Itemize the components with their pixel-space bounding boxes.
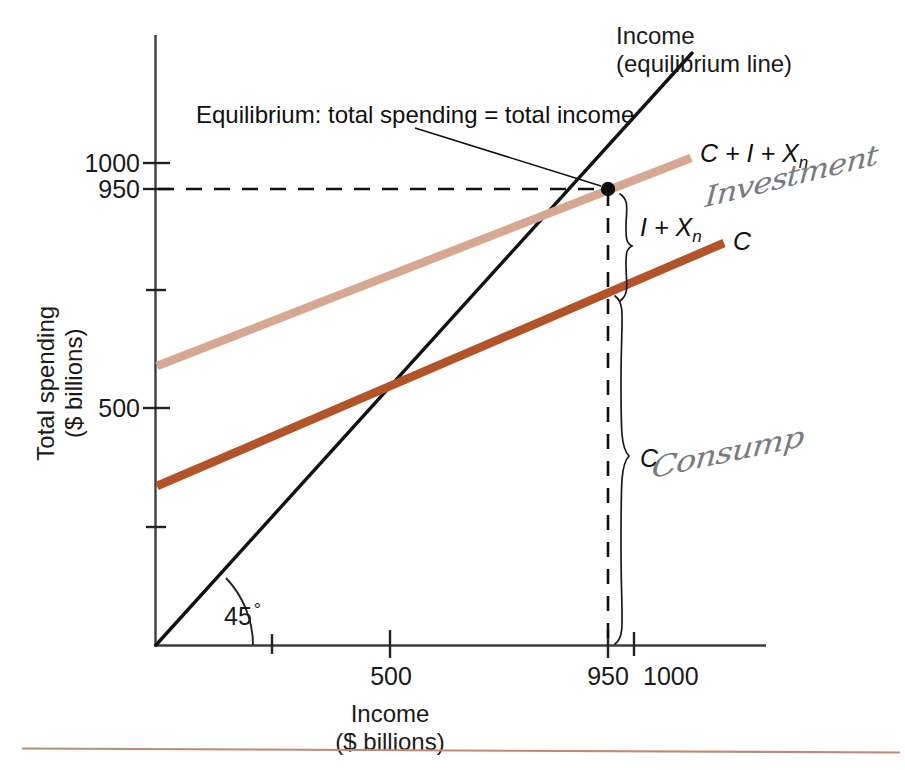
brace-label-plus: + (647, 213, 676, 241)
footer-rule (0, 742, 905, 760)
brace-label-investment: I + Xn (640, 213, 702, 247)
brace-label-i: I (640, 213, 647, 241)
y-tick-label-950: 950 (82, 175, 140, 204)
angle-label-value: 45 (224, 602, 252, 630)
x-tick-label-500: 500 (360, 662, 422, 691)
income-equilibrium-line (156, 53, 692, 645)
economics-equilibrium-chart: 1000 950 500 500 950 1000 Total spending… (0, 0, 905, 770)
x-axis-ticks (272, 630, 634, 658)
curve-label-plus-1: + (718, 139, 747, 167)
equilibrium-callout-text: Equilibrium: total spending = total inco… (196, 101, 634, 129)
y-axis-title: Total spending ($ billions) (32, 268, 89, 498)
brace-label-x: X (675, 213, 692, 241)
x-tick-label-950: 950 (577, 662, 639, 691)
curve-label-consumption: C (733, 227, 751, 256)
curve-label-c: C (700, 139, 718, 167)
angle-label-45: 45° (224, 600, 261, 631)
income-line-label-line1: Income (616, 22, 792, 50)
equilibrium-point (601, 182, 615, 196)
y-tick-label-1000: 1000 (82, 149, 140, 178)
brace-consumption (615, 296, 629, 644)
x-tick-label-1000: 1000 (643, 662, 721, 691)
y-axis-title-line2: ($ billions) (60, 268, 88, 498)
income-line-label-line2: (equilibrium line) (616, 50, 792, 78)
degree-symbol-icon: ° (254, 600, 261, 620)
y-axis-title-line1: Total spending (32, 268, 60, 498)
brace-label-x-subscript: n (692, 227, 701, 246)
curve-label-i: I (747, 139, 754, 167)
income-line-label: Income (equilibrium line) (616, 22, 792, 79)
consumption-line (157, 243, 724, 486)
x-axis-title-line1: Income (300, 700, 480, 728)
y-tick-label-500: 500 (82, 394, 140, 423)
equilibrium-callout-leader (415, 128, 601, 186)
